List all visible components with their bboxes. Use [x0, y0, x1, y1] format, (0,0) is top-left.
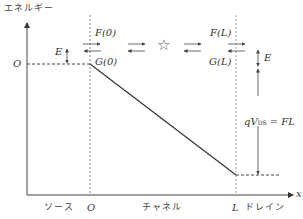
- g0-label: G(0): [95, 57, 117, 67]
- fl-label: F(L): [210, 28, 231, 38]
- channel-label: チャネル: [142, 203, 182, 212]
- x-axis-label: x: [296, 189, 302, 199]
- L-tick-label: L: [232, 203, 239, 213]
- potential-slope-line: [90, 64, 236, 175]
- qvds-label: qVDS = FL: [244, 117, 295, 127]
- origin-label: O: [13, 59, 21, 69]
- f0-label: F(0): [95, 28, 116, 38]
- zero-tick-label: O: [87, 203, 95, 213]
- e-left-label: E: [55, 47, 62, 57]
- drain-label: ドレイン: [245, 203, 285, 212]
- source-label: ソース: [44, 203, 74, 212]
- star-icon: ☆: [157, 38, 170, 53]
- gl-label: G(L): [209, 57, 231, 67]
- energy-band-diagram: [0, 0, 303, 219]
- y-axis-label: エネルギー: [4, 4, 54, 13]
- e-right-label: E: [264, 53, 271, 63]
